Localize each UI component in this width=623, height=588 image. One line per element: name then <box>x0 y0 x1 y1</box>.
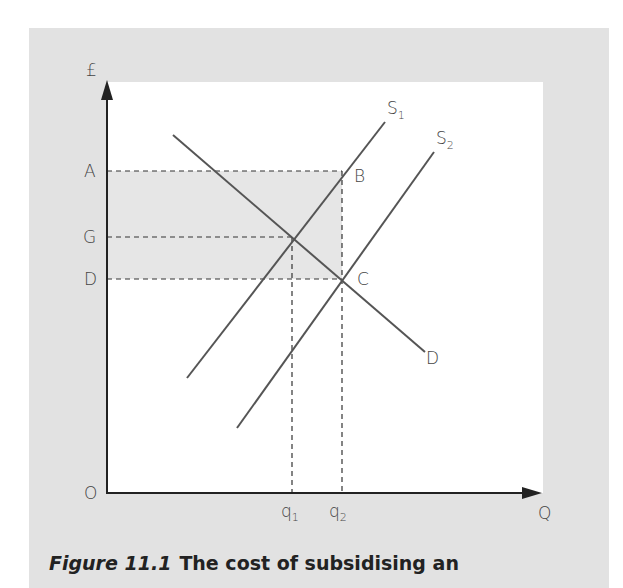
origin-label: O <box>84 483 97 503</box>
figure-caption: Figure 11.1The cost of subsidising an <box>49 552 459 574</box>
subsidy-cost-area <box>107 171 342 279</box>
q2-label: q2 <box>329 501 347 524</box>
q1-label: q1 <box>281 501 299 524</box>
price-label-d: D <box>84 269 97 289</box>
price-label-g: G <box>83 227 96 247</box>
point-label-c: C <box>357 269 369 289</box>
y-axis-label: £ <box>86 60 97 80</box>
point-label-b: B <box>354 166 365 186</box>
price-label-a: A <box>84 161 96 181</box>
demand-curve-label: D <box>426 348 439 368</box>
x-axis-label: Q <box>538 503 551 523</box>
figure-number: Figure 11.1 <box>49 552 171 574</box>
plot-area <box>107 82 543 493</box>
figure-title: The cost of subsidising an <box>179 552 459 574</box>
